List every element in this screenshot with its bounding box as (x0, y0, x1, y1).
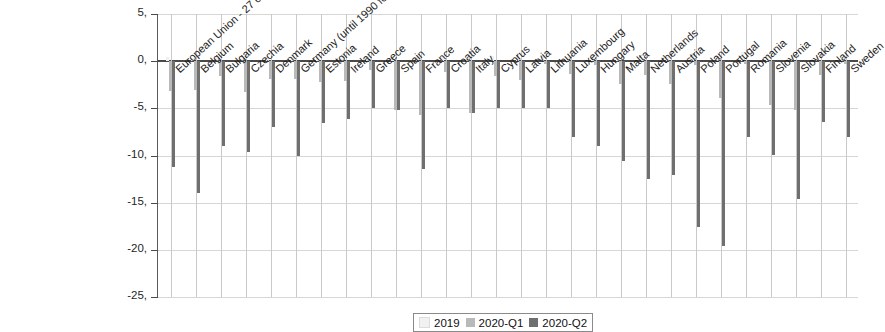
chart-bar (691, 53, 694, 61)
chart-bar (516, 55, 519, 62)
plot-area (158, 14, 858, 297)
chart-category-group (208, 14, 233, 297)
category-separator (696, 14, 697, 297)
chart-category-group (283, 14, 308, 297)
y-axis-tick-label: -25, (127, 289, 147, 301)
chart-bar (322, 61, 325, 123)
y-axis-tick-mark (151, 61, 158, 62)
category-separator (796, 14, 797, 297)
chart-category-group (258, 14, 283, 297)
chart-category-group (458, 14, 483, 297)
legend-swatch (529, 318, 538, 327)
chart-bar (747, 61, 750, 136)
y-axis-tick-mark (151, 156, 158, 157)
chart-bar (341, 54, 344, 62)
category-separator (471, 14, 472, 297)
chart-bar (497, 61, 500, 108)
chart-bar (772, 61, 775, 155)
chart-bar (572, 61, 575, 136)
chart-category-group (708, 14, 733, 297)
chart-bar (397, 61, 400, 110)
chart-bar (647, 61, 650, 179)
category-separator (296, 14, 297, 297)
chart-category-group (333, 14, 358, 297)
chart-category-group (658, 14, 683, 297)
chart-category-group (583, 14, 608, 297)
category-separator (546, 14, 547, 297)
chart-bar (591, 54, 594, 62)
category-separator (671, 14, 672, 297)
category-separator (521, 14, 522, 297)
chart-bar (172, 61, 175, 167)
chart-category-group (183, 14, 208, 297)
chart-category-group (433, 14, 458, 297)
y-axis-tick-mark (151, 297, 158, 298)
chart-bar (297, 61, 300, 156)
chart-category-group (608, 14, 633, 297)
y-axis-tick-mark (151, 203, 158, 204)
chart-bar (372, 61, 375, 108)
category-separator (271, 14, 272, 297)
legend-label: 2020-Q1 (479, 317, 524, 329)
chart-category-group (833, 14, 858, 297)
y-axis-tick-mark (151, 108, 158, 109)
chart-bar (766, 55, 769, 62)
chart-category-group (483, 14, 508, 297)
category-separator (246, 14, 247, 297)
chart-category-group (633, 14, 658, 297)
y-axis-tick-label: 5, (137, 6, 147, 18)
legend-item[interactable]: 2020-Q2 (529, 317, 587, 329)
legend-item[interactable]: 2020-Q1 (466, 317, 524, 329)
chart-bar (197, 61, 200, 193)
chart-category-group (508, 14, 533, 297)
chart-bar (722, 61, 725, 246)
chart-bar (522, 61, 525, 108)
gridline (158, 297, 858, 298)
chart-category-group (808, 14, 833, 297)
category-separator (446, 14, 447, 297)
chart-category-group (558, 14, 583, 297)
chart-category-group (408, 14, 433, 297)
category-separator (421, 14, 422, 297)
chart-category-group (358, 14, 383, 297)
y-axis-tick-mark (151, 250, 158, 251)
chart-bar (347, 61, 350, 119)
legend-label: 2020-Q2 (542, 317, 587, 329)
chart-category-group (758, 14, 783, 297)
chart-bar (547, 61, 550, 108)
legend-item[interactable]: 2019 (419, 317, 460, 329)
category-separator (571, 14, 572, 297)
chart-category-group (783, 14, 808, 297)
category-separator (596, 14, 597, 297)
y-axis-tick-label: -15, (127, 195, 147, 207)
chart-bar (222, 61, 225, 146)
chart-category-group (533, 14, 558, 297)
category-separator (196, 14, 197, 297)
chart-category-group (383, 14, 408, 297)
y-axis-tick-label: 0, (137, 53, 147, 65)
chart-bar (597, 61, 600, 146)
chart-bar (797, 61, 800, 199)
y-axis-tick-mark (151, 14, 158, 15)
category-separator (771, 14, 772, 297)
legend-swatch (419, 317, 430, 328)
category-separator (346, 14, 347, 297)
chart-bar (822, 61, 825, 122)
category-separator (496, 14, 497, 297)
y-axis-tick-label: -10, (127, 148, 147, 160)
chart-category-group (158, 14, 183, 297)
legend-label: 2019 (434, 317, 460, 329)
chart-bar (847, 61, 850, 136)
chart-bar (422, 61, 425, 169)
chart-bar (247, 61, 250, 152)
y-axis-tick-label: -20, (127, 242, 147, 254)
category-separator (646, 14, 647, 297)
chart-category-group (733, 14, 758, 297)
chart-bar (272, 61, 275, 127)
category-separator (396, 14, 397, 297)
chart-bar (316, 55, 319, 62)
chart-bar (622, 61, 625, 161)
category-separator (321, 14, 322, 297)
category-separator (371, 14, 372, 297)
